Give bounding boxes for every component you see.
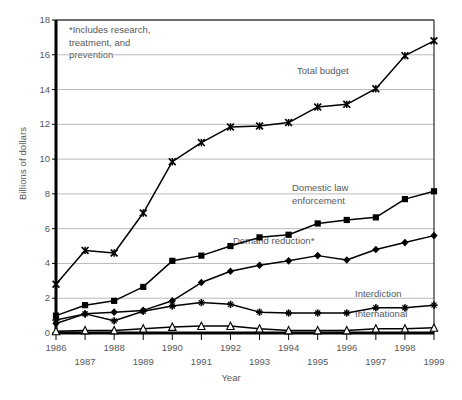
series-demand-reduction	[52, 232, 437, 327]
x-tick-label-1999: 1999	[414, 357, 454, 367]
x-tick-label-1993: 1993	[240, 357, 280, 367]
y-tick-label-0: 0	[24, 328, 50, 338]
x-tick-label-1991: 1991	[181, 357, 221, 367]
y-tick-label-18: 18	[24, 15, 50, 25]
x-tick-label-1986: 1986	[36, 343, 76, 353]
y-tick-label-10: 10	[24, 154, 50, 164]
x-tick-label-1990: 1990	[152, 343, 192, 353]
y-tick-label-12: 12	[24, 119, 50, 129]
plot-canvas	[0, 0, 462, 400]
y-tick-label-16: 16	[24, 50, 50, 60]
x-tick-label-1996: 1996	[327, 343, 367, 353]
x-tick-label-1998: 1998	[385, 343, 425, 353]
x-tick-label-1989: 1989	[123, 357, 163, 367]
series-domestic-law-enforcement	[53, 188, 437, 319]
x-tick-label-1997: 1997	[356, 357, 396, 367]
chart-figure: Billions of dollars Year *Includes resea…	[0, 0, 462, 400]
y-tick-label-6: 6	[24, 224, 50, 234]
y-tick-label-14: 14	[24, 85, 50, 95]
x-tick-label-1992: 1992	[210, 343, 250, 353]
x-tick-label-1995: 1995	[298, 357, 338, 367]
y-tick-label-8: 8	[24, 189, 50, 199]
series-total-budget	[53, 37, 438, 288]
y-tick-label-2: 2	[24, 293, 50, 303]
x-tick-label-1988: 1988	[94, 343, 134, 353]
y-tick-label-4: 4	[24, 258, 50, 268]
x-tick-label-1994: 1994	[269, 343, 309, 353]
x-tick-label-1987: 1987	[65, 357, 105, 367]
